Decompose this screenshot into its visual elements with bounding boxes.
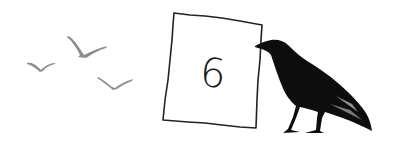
gull-right-icon [97,77,133,90]
gull-left-icon [27,63,55,72]
illustration-scene: 6 [0,0,399,146]
gull-top-icon [67,36,107,58]
sign-number: 6 [193,47,232,99]
crow-icon [255,40,372,133]
